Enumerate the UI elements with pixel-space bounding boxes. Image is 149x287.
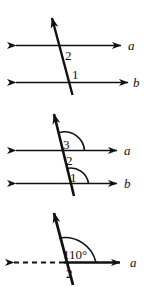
angle-measure-110: 110° <box>63 247 87 262</box>
diagram-top: a b 2 1 <box>16 18 140 95</box>
diagram-canvas: a b 2 1 a b 3 2 1 <box>0 0 149 287</box>
angle-label-3: 3 <box>63 137 70 152</box>
angle-label-1: 1 <box>72 67 79 82</box>
angle-label-2: 2 <box>66 153 73 168</box>
diagram-bottom: a 110° 2 <box>14 213 137 285</box>
diagram-middle: a b 3 2 1 <box>16 114 131 196</box>
line-label-a: a <box>130 255 137 270</box>
line-label-a: a <box>124 143 131 158</box>
line-label-b: b <box>124 176 131 191</box>
angle-label-2: 2 <box>65 48 72 63</box>
angle-label-2: 2 <box>66 266 73 281</box>
angle-label-1: 1 <box>70 170 77 185</box>
geometry-figure: a b 2 1 a b 3 2 1 <box>0 0 149 287</box>
line-label-a: a <box>128 38 135 53</box>
line-label-b: b <box>133 75 140 90</box>
